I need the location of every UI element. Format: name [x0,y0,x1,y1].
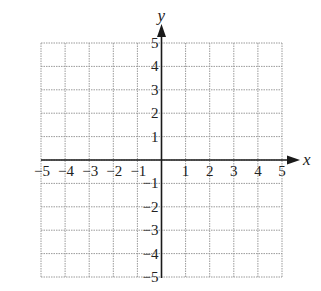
y-tick-label: 4 [151,58,159,74]
y-tick-label: −1 [143,175,159,191]
x-tick-labels: −5−4−3−2−112345 [34,163,286,179]
y-tick-label: 3 [151,82,159,98]
y-tick-label: 5 [151,35,159,51]
x-tick-label: 4 [254,163,262,179]
y-axis-label: y [156,6,166,25]
y-tick-label: −4 [143,246,159,262]
x-tick-label: −3 [82,163,98,179]
x-tick-label: −2 [106,163,122,179]
x-tick-label: −4 [58,163,74,179]
y-tick-label: 2 [151,105,159,121]
axes [41,24,300,278]
x-tick-label: 5 [278,163,286,179]
x-tick-label: 3 [230,163,238,179]
coordinate-plane: x y −5−4−3−2−112345 54321−1−2−3−4−5 [0,0,321,291]
x-tick-label: −5 [34,163,50,179]
y-tick-label: −5 [143,269,159,285]
x-tick-label: 2 [206,163,214,179]
y-tick-label: −2 [143,199,159,215]
y-tick-label: −3 [143,222,159,238]
y-tick-label: 1 [151,129,159,145]
x-tick-label: 1 [182,163,190,179]
x-axis-label: x [302,150,311,169]
x-axis-arrow-icon [287,156,300,165]
